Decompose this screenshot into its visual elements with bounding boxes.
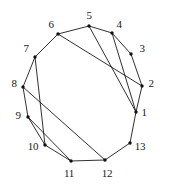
vertex-label-3: 3 bbox=[139, 43, 144, 54]
graph-vertex-12 bbox=[103, 158, 106, 161]
graph-canvas bbox=[0, 0, 171, 190]
graph-edge-2-3 bbox=[131, 54, 142, 86]
vertex-label-2: 2 bbox=[148, 78, 153, 89]
graph-edge-6-7 bbox=[35, 34, 58, 57]
graph-edge-4-1 bbox=[112, 33, 136, 112]
graph-edge-5-1 bbox=[89, 26, 136, 112]
vertex-label-12: 12 bbox=[102, 168, 112, 179]
graph-vertex-7 bbox=[33, 55, 36, 58]
graph-edge-12-13 bbox=[105, 143, 130, 160]
graph-vertex-3 bbox=[129, 52, 132, 55]
graph-vertex-5 bbox=[87, 24, 90, 27]
edges-layer bbox=[23, 26, 142, 161]
vertex-label-9: 9 bbox=[15, 110, 20, 121]
vertex-label-13: 13 bbox=[135, 141, 145, 152]
graph-edge-5-6 bbox=[58, 26, 89, 34]
vertex-label-6: 6 bbox=[48, 19, 53, 30]
graph-edge-7-8 bbox=[23, 57, 35, 87]
graph-edge-13-1 bbox=[130, 112, 136, 143]
vertex-label-5: 5 bbox=[86, 10, 91, 21]
vertex-label-4: 4 bbox=[116, 19, 121, 30]
graph-vertex-9 bbox=[26, 115, 29, 118]
vertex-label-7: 7 bbox=[23, 43, 28, 54]
graph-vertex-13 bbox=[128, 141, 131, 144]
vertices-layer bbox=[21, 24, 143, 162]
graph-vertex-2 bbox=[140, 84, 143, 87]
vertex-label-10: 10 bbox=[28, 141, 38, 152]
graph-vertex-11 bbox=[69, 159, 72, 162]
graph-vertex-6 bbox=[56, 32, 59, 35]
graph-vertex-8 bbox=[21, 85, 24, 88]
vertex-label-11: 11 bbox=[64, 168, 74, 179]
vertex-label-1: 1 bbox=[141, 107, 146, 118]
graph-edge-11-12 bbox=[71, 160, 105, 161]
polygon-graph-figure: 12345678910111213 bbox=[0, 0, 171, 190]
graph-vertex-1 bbox=[134, 110, 137, 113]
graph-edge-8-9 bbox=[23, 87, 28, 117]
graph-edge-6-2 bbox=[58, 34, 142, 86]
graph-vertex-10 bbox=[43, 143, 46, 146]
vertex-label-8: 8 bbox=[11, 78, 16, 89]
graph-vertex-4 bbox=[110, 31, 113, 34]
